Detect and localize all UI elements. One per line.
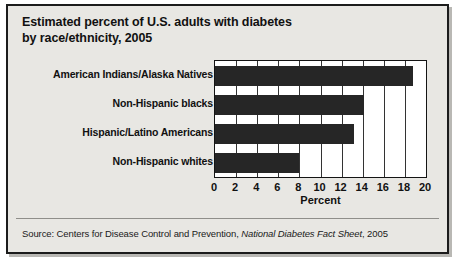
bar-slot	[215, 119, 426, 148]
x-tick-label: 18	[398, 180, 410, 194]
x-tick-label: 6	[274, 180, 280, 194]
footer-divider	[16, 218, 439, 219]
x-tick-label: 0	[211, 180, 217, 194]
chart-figure: Estimated percent of U.S. adults with di…	[6, 4, 449, 254]
chart-title: Estimated percent of U.S. adults with di…	[22, 14, 352, 46]
bar	[215, 153, 299, 173]
x-axis-title: Percent	[214, 194, 427, 206]
bar-slot	[215, 61, 426, 90]
x-tick-label: 2	[232, 180, 238, 194]
category-label: American Indians/Alaska Natives	[8, 60, 213, 89]
x-tick-label: 4	[253, 180, 259, 194]
category-label: Non-Hispanic blacks	[8, 89, 213, 118]
x-tick-label: 14	[356, 180, 368, 194]
x-tick-label: 8	[295, 180, 301, 194]
category-label: Non-Hispanic whites	[8, 147, 213, 176]
bar	[215, 95, 364, 115]
bar	[215, 124, 354, 144]
bar-series	[215, 61, 426, 177]
bar	[215, 66, 413, 86]
source-note: Source: Centers for Disease Control and …	[22, 228, 442, 239]
x-tick-label: 10	[313, 180, 325, 194]
source-publication: National Diabetes Fact Sheet	[241, 228, 362, 239]
x-tick-label: 12	[334, 180, 346, 194]
category-label: Hispanic/Latino Americans	[8, 118, 213, 147]
x-tick-label: 16	[377, 180, 389, 194]
y-axis-category-labels: American Indians/Alaska NativesNon-Hispa…	[8, 60, 213, 178]
chart-title-line-2: by race/ethnicity, 2005	[22, 30, 352, 46]
bar-slot	[215, 148, 426, 177]
bar-slot	[215, 90, 426, 119]
plot-area	[214, 60, 427, 178]
source-suffix: , 2005	[362, 228, 388, 239]
x-tick-label: 20	[419, 180, 431, 194]
chart-plot-region: American Indians/Alaska NativesNon-Hispa…	[8, 60, 447, 210]
chart-title-line-1: Estimated percent of U.S. adults with di…	[22, 14, 352, 30]
source-prefix: Source: Centers for Disease Control and …	[22, 228, 241, 239]
